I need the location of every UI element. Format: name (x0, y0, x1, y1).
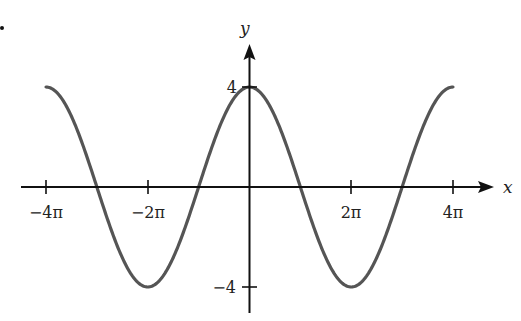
y-tick-label-4: 4 (227, 78, 237, 97)
cosine-graph: x y −4π −2π 2π 4π 4 −4 (0, 0, 521, 321)
y-axis-label: y (239, 18, 250, 38)
x-tick-label-neg2pi: −2π (131, 203, 165, 222)
x-tick-label-neg4pi: −4π (29, 203, 63, 222)
y-tick-label-neg4: −4 (212, 278, 236, 297)
x-axis-label: x (503, 177, 513, 197)
problem-bullet (0, 26, 4, 30)
x-tick-label-2pi: 2π (341, 203, 362, 222)
x-tick-label-4pi: 4π (443, 203, 464, 222)
